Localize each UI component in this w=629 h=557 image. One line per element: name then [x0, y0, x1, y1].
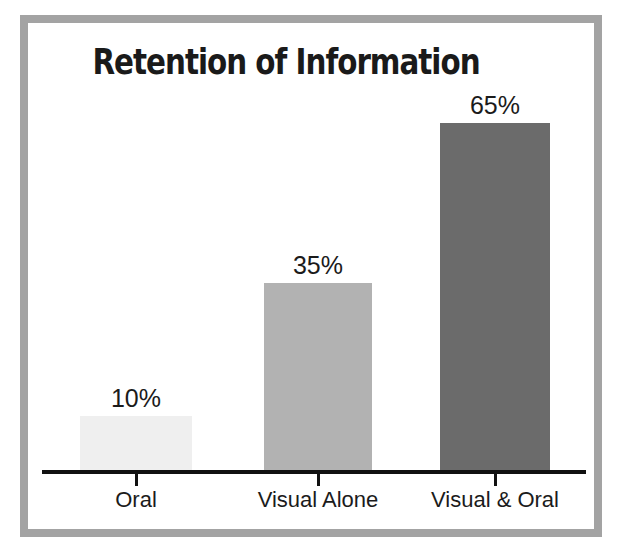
axis-tick — [317, 474, 320, 486]
axis-tick — [135, 474, 138, 486]
bar-value-label: 10% — [76, 384, 196, 412]
x-axis-line — [42, 470, 586, 474]
plot-area: Retention of Information 10%35%65% OralV… — [0, 0, 629, 557]
bar-value-label: 65% — [435, 91, 555, 119]
category-label-oral: Oral — [46, 487, 226, 513]
category-label-visual-oral: Visual & Oral — [405, 487, 585, 513]
category-label-visual-alone: Visual Alone — [228, 487, 408, 513]
bar-oral — [80, 416, 192, 470]
axis-tick — [494, 474, 497, 486]
bar-visual-alone — [264, 283, 372, 470]
bar-value-label: 35% — [258, 251, 378, 279]
scan-page: Retention of Information 10%35%65% OralV… — [0, 0, 629, 557]
chart-title: Retention of Information — [84, 42, 487, 82]
bar-visual-oral — [440, 123, 550, 470]
